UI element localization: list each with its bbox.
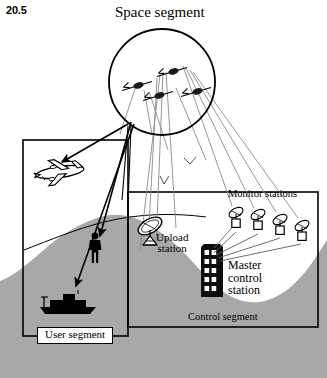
arrow-to-aircraft [62,124,128,162]
control-network-links [214,232,301,261]
monitor-stations-label: Monitor stations [228,188,297,199]
aircraft-user [32,156,85,188]
satellite-2 [157,67,187,77]
satellite-1 [122,81,152,91]
master-control-building [201,244,223,297]
upload-station-label-line2: station [156,243,188,254]
monitor-station-2 [249,207,266,229]
upload-station-label: Upload station [156,232,188,255]
ray-direction-chevrons [160,157,196,184]
master-control-label-line3: station [228,284,262,297]
master-control-station-label: Master control station [228,259,262,297]
monitor-station-4 [293,218,310,240]
monitor-station-3 [271,212,288,234]
figure-20-5: 20.5 Space segment Monitor stations Uplo… [0,0,327,378]
monitor-station-1 [227,205,244,227]
figure-number: 20.5 [6,5,27,17]
master-control-label-line1: Master [228,259,262,272]
control-segment-label: Control segment [188,311,258,322]
space-segment-title: Space segment [115,4,205,20]
space-segment-circle [109,29,215,135]
user-segment-label: User segment [37,327,113,344]
